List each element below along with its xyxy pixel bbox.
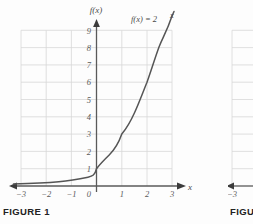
svg-text:3: 3 [86, 129, 91, 139]
x-axis-right-arrow-icon [177, 182, 186, 189]
y-axis-up-arrow-icon [93, 19, 100, 27]
x-axis-tick-labels: −3 −2 −1 1 2 3 [16, 189, 174, 199]
function-plot-figure-1: 9 8 7 6 5 4 3 2 1 0 −3 −2 −1 1 2 3 f(x) … [0, 0, 200, 200]
svg-text:−1: −1 [66, 189, 76, 199]
svg-text:−2: −2 [41, 189, 52, 199]
exponential-curve [14, 12, 175, 184]
svg-text:2: 2 [145, 189, 150, 199]
svg-text:1: 1 [120, 189, 124, 199]
svg-text:1: 1 [87, 164, 91, 174]
y-axis-label: f(x) [90, 5, 103, 15]
x-axis-label: x [187, 182, 192, 192]
figure-2: −3 FIGURE [228, 0, 253, 224]
y-axis-tick-labels: 9 8 7 6 5 4 3 2 1 0 [86, 26, 92, 199]
curve-equation-exponent: x [169, 10, 174, 20]
svg-text:5: 5 [87, 95, 91, 105]
figure-1: 9 8 7 6 5 4 3 2 1 0 −3 −2 −1 1 2 3 f(x) … [0, 0, 200, 224]
figure-1-caption: FIGURE 1 [3, 206, 50, 217]
figure-2-caption: FIGURE [230, 206, 253, 217]
plot-axes [14, 24, 180, 192]
curve-equation-base: f(x) = 2 [131, 14, 158, 24]
svg-text:0: 0 [87, 189, 92, 199]
plot-grid-figure-2 [232, 30, 253, 186]
function-plot-figure-2: −3 [228, 0, 253, 200]
svg-text:3: 3 [169, 189, 174, 199]
curve-equation-label: f(x) = 2 x [131, 10, 174, 25]
svg-text:−3: −3 [16, 189, 26, 199]
x-axis-tick-label-figure-2: −3 [228, 189, 237, 199]
